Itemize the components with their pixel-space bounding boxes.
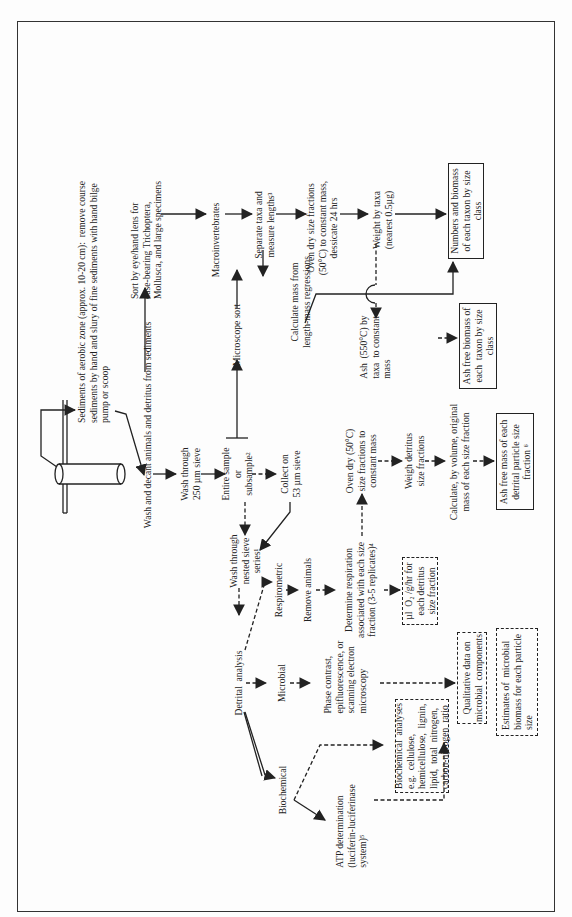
sediments-label: Sediments of aerobic zone (approx. 10-20…	[76, 181, 111, 423]
biochemical-analyses-box: Biochemical analyses e.g. cellulose, hem…	[395, 699, 449, 793]
ul-o2-label: µl O₂ /g/hr for each detritus size fract…	[403, 562, 438, 619]
weigh-detritus-label: Weigh detritus size fractions	[403, 433, 426, 489]
weight-by-taxa-label: Weight by taxa (nearest 0.5µg)	[371, 191, 394, 249]
entire-sample-label: Entire sample or subsample²	[220, 447, 255, 500]
diagram-page: Sediments of aerobic zone (approx. 10-20…	[0, 0, 572, 917]
oven-dry-fractions-label: Oven dry (50°C) size fractions to consta…	[344, 429, 379, 494]
microbial-label: Microbial	[276, 664, 288, 702]
respirometric-label: Respirometric	[273, 563, 285, 617]
ash-550-label: Ash (550°C) by taxa to constant mass	[358, 315, 393, 378]
estimates-microbial-label: Estimates of microbial biomass for each …	[500, 634, 535, 730]
numbers-biomass-label: Numbers and biomass of each taxon by siz…	[449, 168, 484, 253]
determine-respiration-label: Determine respiration associated with ea…	[343, 542, 378, 638]
detrital-analysis-label: Detrital analysis	[233, 650, 245, 715]
ash-free-biomass-label: Ash free biomass of each taxon by size c…	[461, 308, 496, 385]
microscope-sort-label: Microscope sort	[231, 304, 243, 366]
qualitative-data-label: Qualitative data on microbial components	[461, 634, 484, 722]
sort-eye-label: Sort by eye/hand lens for case-bearing T…	[129, 181, 164, 299]
remove-animals-label: Remove animals	[302, 558, 314, 622]
ash-free-biomass-box: Ash free biomass of each taxon by size c…	[459, 303, 497, 389]
numbers-biomass-box: Numbers and biomass of each taxon by siz…	[448, 163, 484, 259]
qualitative-data-box: Qualitative data on microbial components	[457, 632, 487, 724]
estimates-microbial-box: Estimates of microbial biomass for each …	[496, 628, 538, 736]
ul-o2-box: µl O₂ /g/hr for each detritus size fract…	[402, 557, 438, 625]
macroinvertebrates-label: Macroinvertebrates	[210, 203, 222, 278]
biochemical-label: Biochemical	[277, 766, 289, 814]
wash-nested-label: Wash through nested sieve series¹	[228, 534, 263, 587]
calculate-volume-label: Calculate, by volume, original mass of e…	[448, 404, 471, 520]
atp-determination-label: ATP determination (luciferin-luciferinas…	[334, 784, 369, 868]
ash-free-mass-label: Ash free mass of each detrital particle …	[498, 419, 533, 504]
separate-taxa-label: Separate taxa and measure lengths³	[253, 191, 276, 259]
ash-free-mass-box: Ash free mass of each detrital particle …	[496, 413, 534, 510]
phase-contrast-label: Phase contrast, epifluorescence, or scan…	[322, 641, 368, 714]
wash-250-label: Wash through 250 µm sieve	[179, 447, 202, 500]
collect-53-label: Collect on 53 µm sieve	[279, 450, 302, 497]
wash-decant-label: Wash and decant animals and detritus fro…	[142, 322, 154, 528]
calculate-mass-label: Calculate mass from length-mass regressi…	[289, 256, 312, 348]
biochemical-analyses-label: Biochemical analyses e.g. cellulose, hem…	[393, 703, 451, 789]
